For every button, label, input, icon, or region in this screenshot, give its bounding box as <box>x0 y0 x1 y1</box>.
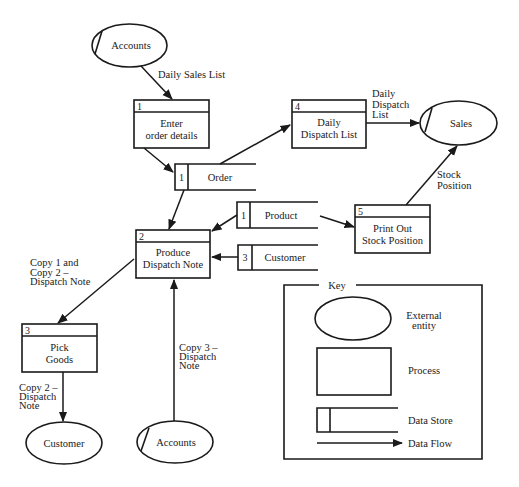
flow-process1-to-order[interactable] <box>144 148 173 172</box>
process-label-line2: Stock Position <box>362 235 424 246</box>
key-legend: Key External entity Process Data Store D… <box>284 280 482 459</box>
process-label-line1: Print Out <box>373 223 412 234</box>
flow-order-to-process4[interactable] <box>220 125 290 164</box>
flow-label-line2: Position <box>437 180 472 191</box>
store-number: 1 <box>241 210 246 221</box>
flow-label-line3: List <box>372 109 388 120</box>
process-label-line2: Dispatch List <box>301 129 357 140</box>
flow-label-line1: Stock <box>437 169 462 180</box>
store-number: 1 <box>179 172 184 183</box>
data-store-customer[interactable]: 3 Customer <box>238 245 318 270</box>
process-label-line1: Enter <box>160 118 183 129</box>
process-number: 5 <box>358 206 363 217</box>
entity-label: Accounts <box>156 437 196 448</box>
flow-label: Daily Sales List <box>158 69 225 80</box>
entity-label: Customer <box>44 438 85 449</box>
process-number: 2 <box>139 231 144 242</box>
process-label-line2: Goods <box>46 354 73 365</box>
flow-copy2-dispatch-note[interactable]: Copy 2 – Dispatch Note <box>19 372 63 421</box>
legend-external-entity-icon <box>315 297 391 340</box>
external-entity-customer[interactable]: Customer <box>26 422 102 464</box>
store-label: Order <box>208 172 233 183</box>
process-2-produce-dispatch-note[interactable]: 2 Produce Dispatch Note <box>136 230 210 278</box>
process-number: 3 <box>25 325 30 336</box>
dfd-canvas: Accounts Sales Customer Accounts 1 Enter… <box>0 0 519 487</box>
legend-data-store-label: Data Store <box>408 415 453 426</box>
store-label: Product <box>265 210 298 221</box>
external-entity-sales[interactable]: Sales <box>420 101 497 145</box>
key-title: Key <box>328 280 346 291</box>
legend-data-store-icon <box>317 408 398 432</box>
entity-label: Accounts <box>111 40 151 51</box>
store-label: Customer <box>265 252 306 263</box>
legend-process-icon <box>317 348 391 395</box>
process-4-daily-dispatch-list[interactable]: 4 Daily Dispatch List <box>292 100 366 148</box>
process-3-pick-goods[interactable]: 3 Pick Goods <box>22 324 97 372</box>
flow-order-to-process2[interactable] <box>169 190 184 229</box>
store-number: 3 <box>243 252 248 263</box>
flow-label-line1: Daily <box>372 88 396 99</box>
duplicate-mark-icon <box>95 31 102 54</box>
process-1-enter-order-details[interactable]: 1 Enter order details <box>134 100 209 148</box>
flow-copy3-dispatch-note[interactable]: Copy 3 – Dispatch Note <box>174 280 218 421</box>
process-label-line1: Pick <box>50 342 69 353</box>
process-number: 1 <box>137 101 142 112</box>
process-label-line2: Dispatch Note <box>143 259 204 270</box>
data-store-order[interactable]: 1 Order <box>175 164 256 190</box>
flow-copy1-copy2-dispatch-note[interactable]: Copy 1 and Copy 2 – Dispatch Note <box>30 257 134 323</box>
flow-label-line3: Note <box>19 400 40 411</box>
external-entity-accounts-top[interactable]: Accounts <box>92 24 167 67</box>
legend-data-flow-label: Data Flow <box>408 438 452 449</box>
process-label-line1: Daily <box>317 117 341 128</box>
flow-label-line3: Dispatch Note <box>30 276 91 287</box>
process-number: 4 <box>295 101 300 112</box>
process-label-line2: order details <box>145 130 197 141</box>
legend-process-label: Process <box>408 365 440 376</box>
process-label-line1: Produce <box>156 247 191 258</box>
data-store-product[interactable]: 1 Product <box>237 202 318 228</box>
flow-daily-sales-list[interactable]: Daily Sales List <box>141 66 225 99</box>
flow-label-line3: Note <box>179 360 200 371</box>
flow-daily-dispatch-list[interactable]: Daily Dispatch List <box>366 88 419 123</box>
entity-label: Sales <box>450 118 472 129</box>
process-5-print-out-stock-position[interactable]: 5 Print Out Stock Position <box>355 205 430 253</box>
flow-stock-position[interactable]: Stock Position <box>406 146 472 205</box>
external-entity-accounts-bottom[interactable]: Accounts <box>137 421 213 463</box>
flow-product-to-process5[interactable] <box>320 216 354 227</box>
legend-external-entity-label-2: entity <box>412 320 437 331</box>
flow-product-to-process2[interactable] <box>212 215 237 231</box>
